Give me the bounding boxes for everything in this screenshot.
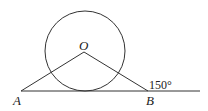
segment-ob: [84, 52, 148, 91]
label-a: A: [13, 94, 21, 107]
angle-label: 150°: [149, 79, 172, 91]
label-o: O: [79, 39, 88, 52]
label-b: B: [146, 94, 154, 107]
segment-oa: [21, 52, 84, 91]
geometry-figure: [0, 0, 208, 111]
